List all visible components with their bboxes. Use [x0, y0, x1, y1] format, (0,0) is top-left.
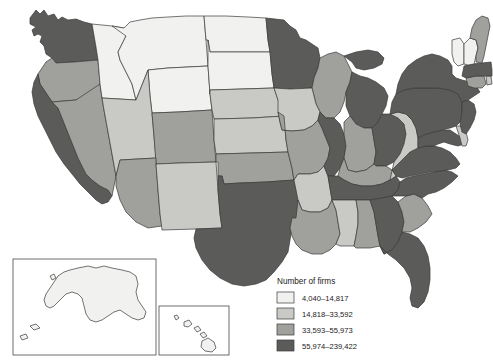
state-VT[interactable] — [452, 38, 464, 66]
legend-label-3: 55,974–239,422 — [302, 342, 357, 351]
state-RI[interactable] — [486, 76, 492, 85]
state-AK[interactable] — [20, 266, 146, 340]
map-legend: Number of firms 4,040–14,817 14,818–33,5… — [277, 277, 357, 351]
legend-swatch-3 — [277, 340, 294, 351]
hawaii-inset-frame — [159, 306, 229, 355]
state-OK[interactable] — [216, 152, 294, 184]
states-layer — [13, 10, 492, 355]
state-MN[interactable] — [266, 18, 320, 89]
state-WA[interactable] — [30, 10, 98, 63]
state-CO[interactable] — [152, 110, 216, 164]
choropleth-map-figure: Number of firms 4,040–14,817 14,818–33,5… — [0, 0, 493, 362]
legend-label-1: 14,818–33,592 — [302, 310, 353, 319]
state-NJ[interactable] — [460, 100, 476, 134]
state-NE[interactable] — [210, 88, 284, 119]
legend-swatch-0 — [277, 292, 294, 303]
state-CT[interactable] — [466, 76, 486, 88]
state-NM[interactable] — [156, 162, 222, 230]
legend-swatch-2 — [277, 324, 294, 335]
state-HI[interactable] — [174, 315, 216, 352]
legend-swatch-1 — [277, 308, 294, 319]
state-AZ[interactable] — [116, 158, 162, 228]
state-ND[interactable] — [204, 16, 270, 52]
state-KS[interactable] — [214, 116, 288, 154]
us-states-choropleth-svg: Number of firms 4,040–14,817 14,818–33,5… — [0, 0, 493, 362]
state-SC[interactable] — [398, 194, 432, 232]
state-WY[interactable] — [148, 66, 212, 113]
legend-title: Number of firms — [277, 277, 335, 286]
legend-label-0: 4,040–14,817 — [302, 294, 348, 303]
legend-label-2: 33,593–55,973 — [302, 326, 353, 335]
